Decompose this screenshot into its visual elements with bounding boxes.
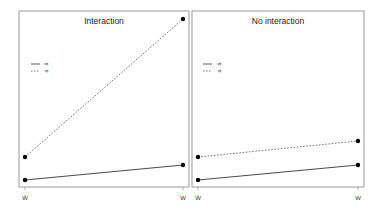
data-point	[196, 155, 200, 159]
legend-label-a: a	[43, 69, 49, 73]
x-tick-label-wbar: W̄	[22, 195, 28, 201]
legend-label-abar: ā	[216, 62, 222, 66]
legend-label-a: a	[216, 69, 222, 73]
panel-title: Interaction	[84, 16, 124, 26]
x-tick-label-w: W	[180, 195, 186, 201]
data-point	[23, 155, 27, 159]
plot-frame	[192, 11, 364, 187]
chart-canvas: Interaction ā a W̄ W No interaction ā a	[0, 0, 381, 216]
data-point	[181, 17, 185, 21]
data-point	[196, 178, 200, 182]
data-point	[356, 163, 360, 167]
data-point	[23, 178, 27, 182]
series-dashed-line	[25, 19, 183, 157]
data-point	[356, 139, 360, 143]
series-solid-line	[25, 165, 183, 180]
x-tick-label-wbar: W̄	[195, 195, 201, 201]
panel-interaction: Interaction ā a W̄ W	[19, 11, 189, 201]
panel-no-interaction: No interaction ā a W̄ W	[192, 11, 364, 201]
plot-frame	[19, 11, 189, 187]
series-solid-line	[198, 165, 358, 180]
legend: ā a	[31, 62, 49, 73]
panel-title: No interaction	[252, 16, 305, 26]
legend-label-abar: ā	[43, 62, 49, 66]
series-dashed-line	[198, 141, 358, 157]
x-tick-label-w: W	[355, 195, 361, 201]
legend: ā a	[203, 62, 222, 73]
data-point	[181, 163, 185, 167]
